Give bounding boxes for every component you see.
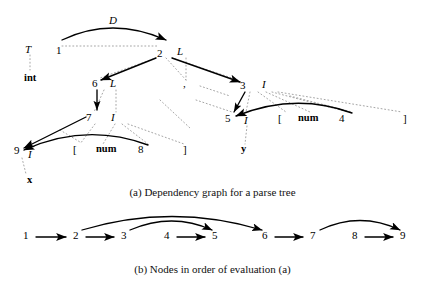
dependency-graph-figure: 1 2 3 4 5 6 7 8 9 T D L L I I I I int , … [0,0,425,294]
seq-node-7: 7 [310,230,316,241]
seq-arc-7-to-9 [320,221,400,231]
panel-b-evaluation-order: 1 2 3 4 5 6 7 8 9 (b) Nodes in order of … [0,0,425,294]
caption-panel-b: (b) Nodes in order of evaluation (a) [0,263,425,275]
seq-node-6: 6 [262,230,268,241]
seq-node-3: 3 [121,230,127,241]
seq-node-9: 9 [400,230,406,241]
sequence-arc-arrows [82,217,400,231]
seq-node-4: 4 [164,230,170,241]
seq-node-2: 2 [73,230,79,241]
seq-node-8: 8 [352,230,358,241]
seq-arc-2-to-6 [82,217,262,231]
panel-b-edges [0,0,425,294]
seq-arc-3-to-5 [130,221,212,230]
seq-node-1: 1 [23,230,29,241]
seq-node-5: 5 [212,230,218,241]
